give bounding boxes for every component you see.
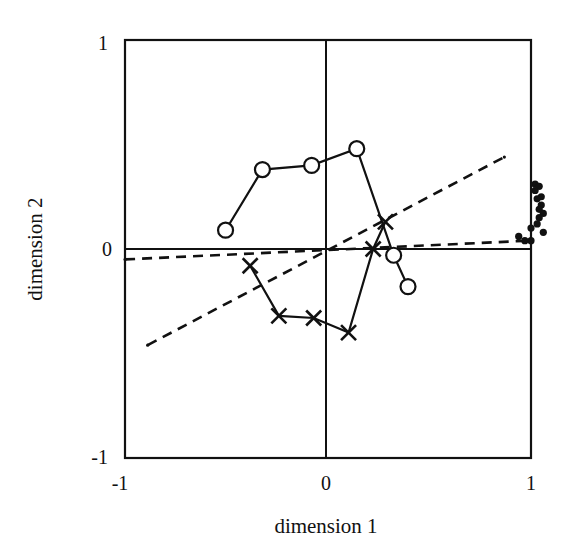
chart-marks [124, 141, 547, 347]
y-tick-label: 1 [98, 32, 108, 54]
circle-marker [349, 141, 364, 156]
crosses-line [250, 222, 385, 333]
line-end-dot [146, 344, 149, 347]
y-tick-label: -1 [91, 446, 108, 468]
dot-marker [527, 225, 534, 232]
dot-marker [515, 233, 522, 240]
x-tick-label: 1 [526, 472, 536, 494]
line-end-dot [124, 258, 127, 261]
x-marker [341, 325, 356, 340]
dot-marker [536, 214, 543, 221]
y-axis-label: dimension 2 [23, 197, 47, 300]
x-axis-label: dimension 1 [274, 514, 377, 538]
x-tick-label: 0 [321, 472, 331, 494]
y-tick-label: 0 [102, 238, 112, 260]
circle-marker [386, 248, 401, 263]
line-end-dot [503, 155, 506, 158]
circle-marker [304, 158, 319, 173]
circle-marker [218, 223, 233, 238]
chart: 1 0 -1 -1 0 1 dimension 1 dimension 2 [0, 0, 564, 558]
x-tick-label: -1 [112, 472, 129, 494]
dot-marker [521, 237, 528, 244]
dot-marker [527, 237, 534, 244]
x-marker [243, 258, 258, 273]
circle-marker [255, 162, 270, 177]
dot-marker [534, 220, 541, 227]
circle-marker [401, 279, 416, 294]
dot-marker [532, 187, 539, 194]
dot-marker [534, 195, 541, 202]
dot-marker [540, 229, 547, 236]
